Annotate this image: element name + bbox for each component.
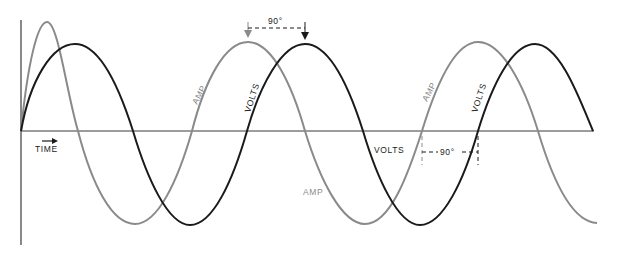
phase-label-bottom: 90°: [440, 147, 455, 157]
phase-label-top: 90°: [268, 16, 283, 26]
amp-label-1: AMP: [190, 83, 208, 106]
volts-label-2: VOLTS: [374, 145, 404, 155]
volts-peak-arrow: [301, 32, 309, 40]
amp-peak-arrow: [244, 30, 252, 38]
time-label: TIME: [35, 144, 58, 154]
amp-label-2: AMP: [303, 187, 323, 197]
phase-diagram: TIME 90° 90° AMP VOLTS VOLTS AMP AMP VOL…: [0, 0, 617, 256]
